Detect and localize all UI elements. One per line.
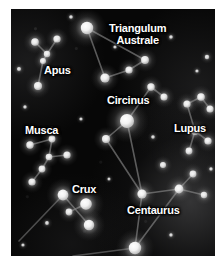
star	[201, 192, 207, 198]
field-star	[69, 15, 73, 19]
star	[80, 198, 92, 210]
star	[207, 106, 214, 113]
field-star	[21, 243, 24, 246]
star	[204, 137, 211, 144]
star	[197, 93, 205, 101]
star	[102, 135, 110, 143]
star	[100, 73, 109, 82]
star	[84, 220, 94, 230]
star	[81, 22, 93, 34]
field-star	[17, 67, 21, 71]
star	[26, 141, 33, 148]
field-star	[45, 221, 49, 225]
constellation-star-chart: Triangulum AustraleApusCircinusMuscaLupu…	[0, 0, 224, 268]
star	[46, 154, 53, 161]
star	[28, 178, 35, 185]
field-star	[151, 135, 155, 139]
star	[63, 151, 70, 158]
field-star	[113, 45, 116, 48]
star	[175, 185, 184, 194]
star	[53, 35, 60, 42]
star	[66, 209, 73, 216]
field-star	[205, 55, 209, 59]
star	[160, 162, 166, 168]
star	[190, 171, 197, 178]
sky-plate: Triangulum AustraleApusCircinusMuscaLupu…	[11, 9, 215, 256]
star	[58, 190, 69, 201]
star	[183, 100, 190, 107]
star	[34, 82, 42, 90]
star	[44, 51, 50, 57]
star	[129, 242, 141, 254]
star-field-svg	[11, 9, 215, 256]
field-star	[195, 69, 198, 72]
star	[31, 38, 39, 46]
star	[39, 166, 46, 173]
star	[49, 136, 56, 143]
star	[147, 83, 154, 90]
field-star	[108, 178, 111, 181]
field-star	[23, 105, 26, 108]
star	[186, 148, 193, 155]
star	[137, 189, 146, 198]
star	[120, 114, 134, 128]
star	[40, 58, 46, 64]
star	[125, 66, 132, 73]
field-star	[79, 117, 82, 120]
field-star	[209, 167, 212, 170]
star	[191, 127, 199, 135]
star	[161, 94, 168, 101]
field-star	[169, 233, 172, 236]
star	[141, 56, 149, 64]
field-star	[169, 35, 173, 39]
